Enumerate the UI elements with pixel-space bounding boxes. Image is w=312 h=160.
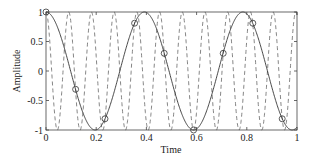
y-tick-label: -0.5 [27, 95, 43, 106]
x-tick-label: 1 [295, 132, 300, 143]
x-axis-label: Time [161, 144, 182, 155]
x-tick-label: 0.4 [140, 132, 153, 143]
x-tick-label: 0.6 [190, 132, 203, 143]
sample-markers [43, 9, 285, 133]
y-tick-label: 0 [38, 66, 43, 77]
x-tick-label: 0 [44, 132, 49, 143]
y-tick-label: 1 [38, 7, 43, 18]
aliasing-chart: 10.50-0.5-1 00.20.40.60.81 Time Amplitud… [0, 0, 312, 160]
y-axis-label: Amplitude [11, 49, 22, 92]
plot-area [43, 9, 297, 133]
y-tick-label: 0.5 [31, 36, 44, 47]
plot-frame [46, 12, 297, 130]
y-tick-label: -1 [35, 125, 43, 136]
x-tick-label: 0.2 [90, 132, 103, 143]
x-tick-label: 0.8 [241, 132, 254, 143]
solid-signal-line [46, 12, 297, 130]
dashed-signal-line [46, 12, 297, 130]
